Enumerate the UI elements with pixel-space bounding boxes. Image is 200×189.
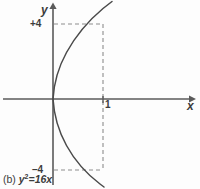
parabola-lower-branch <box>53 99 104 187</box>
y-axis-label: y <box>41 4 48 16</box>
equation-remainder: =16x <box>29 173 53 185</box>
dashed-guides <box>54 24 103 170</box>
y-tick-label-plus-4: +4 <box>30 19 41 29</box>
figure-parabola-y2-16x: y x +4 –4 1 (b) y2=16x <box>0 0 200 189</box>
x-axis-label: x <box>187 100 194 112</box>
figure-caption: (b) y2=16x <box>3 172 52 184</box>
y-axis-arrowhead <box>49 3 56 10</box>
caption-equation: y2=16x <box>19 173 52 185</box>
caption-prefix: (b) <box>3 173 16 185</box>
x-tick-label-one: 1 <box>105 100 111 110</box>
x-axis <box>3 95 196 102</box>
parabola-upper-branch <box>53 2 112 100</box>
